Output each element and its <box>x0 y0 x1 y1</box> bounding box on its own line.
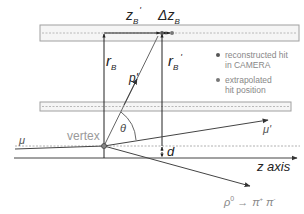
mu-label: μ <box>18 134 25 146</box>
d-label: d <box>167 144 175 159</box>
legend-reconstructed-line1: reconstructed hit <box>225 50 288 60</box>
mu-prime-track <box>104 120 268 146</box>
detector-diagram: zB' ΔzB rB rB' p' θ vertex μ μ' d z axis… <box>0 0 304 214</box>
inner-detector-ring <box>40 102 291 111</box>
delta-z-b-label: ΔzB <box>157 7 180 26</box>
rho-decay-label: ρ0→π+π- <box>223 195 275 208</box>
legend-reconstructed-dot <box>216 53 220 57</box>
mu-prime-label: μ' <box>262 123 272 135</box>
theta-label: θ <box>120 122 126 134</box>
mu-track <box>15 146 104 149</box>
z-b-prime-label: zB' <box>125 5 141 26</box>
reconstructed-hit-dot <box>160 31 164 35</box>
extrapolated-hit-dot <box>170 31 174 35</box>
vertex-dot <box>102 144 107 149</box>
z-axis-label: z axis <box>256 159 291 174</box>
vertex-label: vertex <box>67 129 100 143</box>
rho-track <box>104 146 250 186</box>
legend-extrapolated-line1: extrapolated <box>225 75 272 85</box>
r-b-label: rB <box>106 52 117 72</box>
legend-extrapolated-dot <box>216 78 220 82</box>
p-prime-label: p' <box>128 71 139 85</box>
legend-extrapolated-line2: hit position <box>225 85 266 95</box>
r-b-prime-label: rB' <box>168 52 182 72</box>
legend-reconstructed-line2: in CAMERA <box>225 60 271 70</box>
